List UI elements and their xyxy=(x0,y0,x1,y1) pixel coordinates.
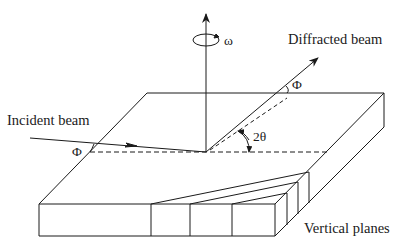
wedge-line-1 xyxy=(151,172,309,204)
slab-front-face xyxy=(39,204,275,236)
phi-diffracted-arc xyxy=(286,86,288,93)
omega-label: ω xyxy=(224,34,233,48)
vertical-planes-label: Vertical planes xyxy=(304,221,390,236)
slab-right-face xyxy=(275,93,384,236)
incident-beam xyxy=(30,138,206,152)
two-theta-label: 2θ xyxy=(253,130,266,144)
omega-rotation-arrowhead xyxy=(214,34,219,38)
phi-incident-label: Φ xyxy=(72,145,82,159)
incident-beam-label: Incident beam xyxy=(7,113,90,128)
sample-slab xyxy=(39,93,384,236)
diffracted-beam-label: Diffracted beam xyxy=(288,32,382,47)
diffracted-projection-dashed xyxy=(210,98,287,150)
phi-diffracted-label: Φ xyxy=(292,78,302,92)
incident-beam-arrowhead xyxy=(125,143,137,147)
wedge-line-3 xyxy=(232,193,287,204)
